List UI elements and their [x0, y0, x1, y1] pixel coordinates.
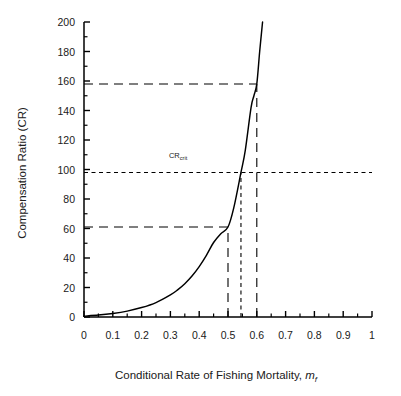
y-tick-label: 80	[63, 193, 75, 205]
y-tick-label: 40	[63, 252, 75, 264]
x-tick-label: 0.2	[134, 329, 149, 341]
y-tick-label: 120	[57, 134, 75, 146]
x-tick-label: 1	[369, 329, 375, 341]
y-tick-label: 200	[57, 16, 75, 28]
y-tick-label: 100	[57, 164, 75, 176]
annotation-subscript: crit	[180, 155, 188, 161]
y-tick-label: 60	[63, 223, 75, 235]
x-tick-label: 0.7	[278, 329, 293, 341]
x-tick-label: 0.3	[163, 329, 178, 341]
x-tick-label: 0	[81, 329, 87, 341]
y-tick-label: 140	[57, 105, 75, 117]
y-tick-label: 160	[57, 75, 75, 87]
x-tick-label: 0.6	[249, 329, 264, 341]
y-axis-title: Compensation Ratio (CR)	[16, 107, 28, 239]
compensation-ratio-chart: 020406080100120140160180200 00.10.20.30.…	[0, 0, 401, 396]
x-axis-title-symbol: m	[305, 369, 315, 381]
x-tick-label: 0.5	[221, 329, 236, 341]
x-tick-label: 0.4	[192, 329, 207, 341]
y-tick-label: 20	[63, 282, 75, 294]
y-tick-label: 0	[69, 311, 75, 323]
x-tick-label: 0.8	[307, 329, 322, 341]
x-axis-title-text: Conditional Rate of Fishing Mortality,	[115, 369, 305, 381]
y-tick-label: 180	[57, 46, 75, 58]
chart-figure: 020406080100120140160180200 00.10.20.30.…	[0, 0, 401, 396]
x-tick-label: 0.1	[105, 329, 120, 341]
x-tick-label: 0.9	[336, 329, 351, 341]
